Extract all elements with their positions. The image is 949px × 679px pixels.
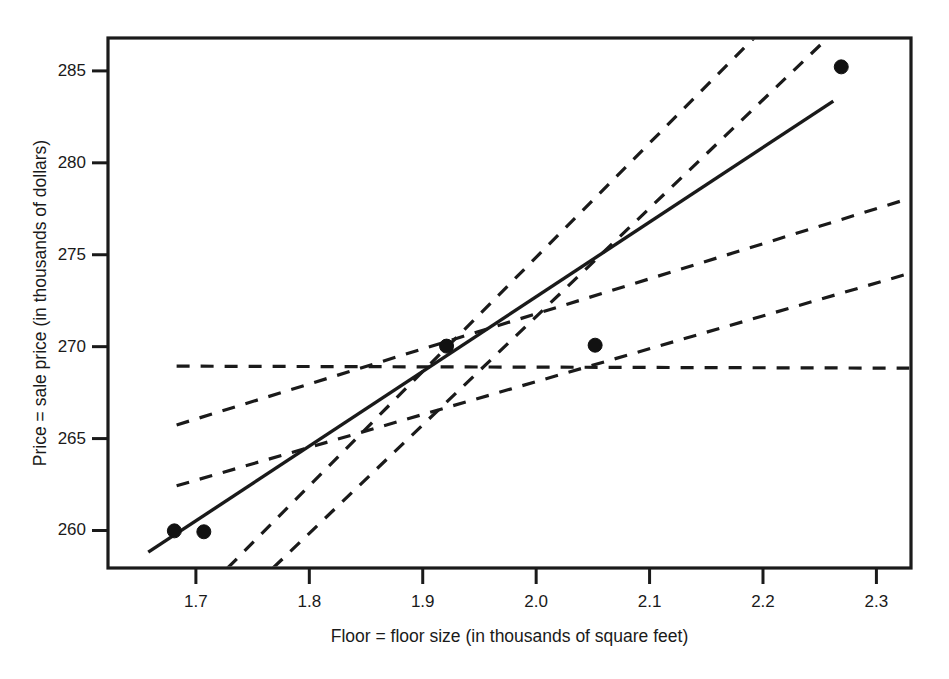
data-point (834, 60, 848, 74)
y-tick-label: 260 (58, 520, 86, 540)
x-tick-label: 2.2 (751, 592, 775, 612)
plot-frame (108, 38, 911, 568)
scatter-plot-figure: 1.71.81.92.02.12.22.3260265270275280285 … (0, 0, 949, 679)
data-point (440, 339, 454, 353)
x-tick-label: 2.1 (638, 592, 662, 612)
y-tick-label: 285 (58, 61, 86, 81)
x-tick-label: 1.9 (411, 592, 435, 612)
y-axis-ticks (92, 71, 108, 531)
y-tick-label: 280 (58, 153, 86, 173)
y-tick-label: 270 (58, 337, 86, 357)
x-tick-label: 2.0 (524, 592, 548, 612)
y-tick-label: 275 (58, 245, 86, 265)
data-point (588, 338, 602, 352)
y-tick-label: 265 (58, 429, 86, 449)
plot-canvas (0, 0, 949, 679)
x-axis-title: Floor = floor size (in thousands of squa… (331, 626, 688, 647)
x-axis-ticks (196, 568, 877, 584)
y-axis-title: Price = sale price (in thousands of doll… (30, 140, 51, 466)
x-tick-label: 2.3 (865, 592, 889, 612)
data-point (167, 524, 181, 538)
x-tick-label: 1.7 (184, 592, 208, 612)
data-point (197, 525, 211, 539)
x-tick-label: 1.8 (297, 592, 321, 612)
